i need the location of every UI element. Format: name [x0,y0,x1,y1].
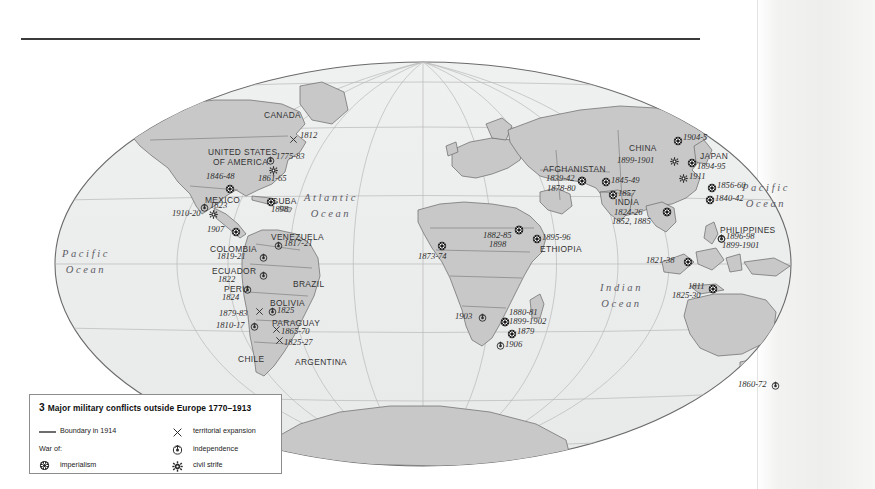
conflict-date-venezuela-1817-21: 1817-21 [284,239,313,248]
imperialism-icon [39,457,51,467]
country-label-brazil: BRAZIL [293,280,324,289]
country-label-ethiopia: ETHIOPIA [540,245,582,254]
legend-war-of-label: War of: [39,444,62,453]
conflict-date-usa-1775-83: 1775-83 [276,152,305,161]
conflict-date-usa-1861-65: 1861-65 [258,174,287,183]
country-label-argentina: ARGENTINA [295,358,347,367]
legend-independence-label: independence [193,444,238,453]
conflict-date-argentina-1825-27: 1825-27 [284,338,313,347]
conflict-date-paraguay-1865-70: 1865-70 [281,327,310,336]
country-label-china: CHINA [629,144,657,153]
conflict-marker-usa-1846-48[interactable] [225,184,236,195]
ocean-label-line1: Atlantic [304,190,358,206]
ocean-label-line1: Pacific [742,180,790,196]
conflict-date-cuba-1898: 1898 [271,205,288,214]
independence-icon [172,441,184,451]
country-label-japan: JAPAN [700,152,728,161]
conflict-date-newzealand-1860-72: 1860-72 [738,380,767,389]
conflict-marker-mexico-1910-20[interactable] [209,210,220,221]
conflict-date-usa-1812: 1812 [300,131,317,140]
conflict-marker-afghanistan-1878-80[interactable] [577,176,588,187]
map-legend: 3 Major military conflicts outside Europ… [29,394,282,474]
conflict-date-china-1911: 1911 [689,172,706,181]
ocean-label-line1: Indian [600,280,643,296]
conflict-date-sudan-1898: 1898 [489,240,506,249]
ocean-label-line2: Ocean [600,296,643,312]
conflict-marker-chile-1879-83[interactable] [255,307,266,318]
ocean-label-line2: Ocean [742,196,790,212]
conflict-date-ecuador-1822: 1822 [218,275,235,284]
conflict-date-india-1857: 1857 [618,189,635,198]
ocean-label-pacific-west: PacificOcean [62,246,110,278]
conflict-date-chile-1879-83: 1879-83 [219,309,248,318]
legend-boundary-label: Boundary in 1914 [60,426,116,435]
conflict-date-west-africa-1873-74: 1873-74 [418,252,447,261]
conflict-marker-chile-1810-17[interactable] [250,322,261,333]
ocean-label-line2: Ocean [62,262,110,278]
legend-number: 3 [39,402,45,413]
ocean-label-pacific-east: PacificOcean [742,180,790,212]
conflict-date-philippines-1899-1901: 1899-1901 [722,241,759,250]
conflict-date-afghanistan-1878-80: 1878-80 [547,184,576,193]
legend-title: 3 Major military conflicts outside Europ… [39,402,251,413]
conflict-date-java-1825-30: 1825-30 [672,291,701,300]
conflict-date-china-1840-42: 1840-42 [715,194,744,203]
conflict-marker-panama-1907[interactable] [231,227,242,238]
conflict-date-mexico-1910-20: 1910-20 [172,209,201,218]
conflict-marker-india-1852-1885[interactable] [662,207,673,218]
boundary-line-symbol [39,431,56,433]
conflict-date-boer-1899-1902: 1899-1902 [509,317,546,326]
conflict-date-china-1904-5: 1904-5 [683,133,707,142]
ocean-label-indian: IndianOcean [600,280,643,312]
conflict-date-china-1856-60: 1856-60 [717,181,746,190]
conflict-date-chile-1810-17: 1810-17 [216,321,245,330]
conflict-date-ethiopia-1895-96: 1895-96 [542,233,571,242]
country-label-canada: CANADA [264,111,301,120]
conflict-marker-newzealand-1860-72[interactable] [771,381,782,392]
conflict-date-usa-1846-48: 1846-48 [206,172,235,181]
gear-icon [172,458,184,468]
ocean-label-atlantic: AtlanticOcean [304,190,358,222]
conflict-date-colombia-1819-21: 1819-21 [217,252,246,261]
legend-territorial-expansion-label: territorial expansion [193,426,256,435]
conflict-marker-colombia-1819-21[interactable] [259,253,270,264]
conflict-date-sumatra-1821-38: 1821-38 [646,256,675,265]
conflict-marker-sudan-1898[interactable] [514,225,525,236]
country-label-chile: CHILE [238,355,264,364]
country-label-of-america: OF AMERICA [213,158,268,167]
cross-icon [172,424,184,434]
legend-imperialism-label: imperialism [60,460,96,469]
legend-title-text: Major military conflicts outside Europe … [48,403,252,413]
ocean-label-line2: Ocean [304,206,358,222]
conflict-date-india-1852-1885: 1852, 1885 [612,217,651,226]
conflict-marker-southwest-africa-1903[interactable] [478,313,489,324]
conflict-date-bolivia-1825: 1825 [277,306,294,315]
conflict-date-china-1899-1901: 1899-1901 [617,156,654,165]
conflict-date-peru-1824: 1824 [222,293,239,302]
conflict-marker-ecuador-1822[interactable] [259,271,270,282]
conflict-marker-usa-1812[interactable] [289,135,300,146]
conflict-date-mexico-1823: 1823 [210,201,227,210]
ocean-label-line1: Pacific [62,246,110,262]
conflict-date-japan-1894-95: 1894-95 [697,162,726,171]
conflict-date-afghanistan-1839-42: 1839-42 [546,174,575,183]
conflict-date-panama-1907: 1907 [207,225,224,234]
conflict-marker-sumatra-1821-38[interactable] [683,257,694,268]
legend-civil-strife-label: civil strife [193,460,223,469]
conflict-marker-java-1825-30[interactable] [708,284,719,295]
conflict-date-southwest-africa-1903: 1903 [455,312,472,321]
conflict-marker-peru-1824[interactable] [243,285,254,296]
conflict-date-natal-1906: 1906 [505,340,522,349]
conflict-marker-china-1899-1901[interactable] [670,157,681,168]
conflict-date-punjab-1845-49: 1845-49 [611,176,640,185]
conflict-date-zulu-1879: 1879 [517,327,534,336]
